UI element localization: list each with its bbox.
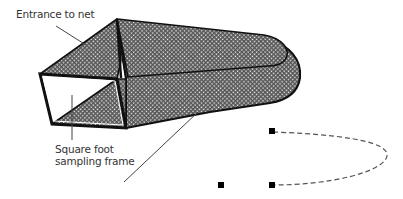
label-frame-line2: sampling frame [55,155,135,167]
net-entrance-lower-panel [52,79,126,128]
label-entrance-to-net: Entrance to net [16,8,95,20]
marker-top[interactable] [269,128,275,134]
net-illustration [0,0,403,199]
net-entrance-top-panel [40,19,121,79]
marker-bottom[interactable] [269,182,275,188]
label-frame-line1: Square foot [55,143,135,155]
net-diagram: Entrance to net Square foot sampling fra… [0,0,403,199]
marker-left[interactable] [218,182,224,188]
dashed-control-curve [273,132,387,185]
leader-line-entrance [56,26,86,45]
label-square-foot-frame: Square foot sampling frame [55,143,135,167]
